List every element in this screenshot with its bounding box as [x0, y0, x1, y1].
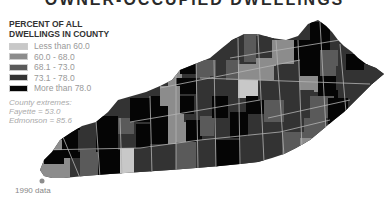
- legend-label: More than 78.0: [34, 83, 91, 93]
- legend-label: 68.1 - 73.0: [34, 62, 75, 72]
- legend-label: Less than 60.0: [34, 41, 90, 51]
- legend-item-73-78: 73.1 - 78.0: [9, 73, 109, 84]
- fulton-exclave: [40, 179, 45, 184]
- data-year-note: 1990 data: [15, 186, 51, 195]
- extremes-heading: County extremes:: [9, 98, 109, 107]
- legend-label: 60.0 - 68.0: [34, 52, 75, 62]
- legend-item-68-73: 68.1 - 73.0: [9, 62, 109, 73]
- legend-label: 73.1 - 78.0: [34, 73, 75, 83]
- legend-item-60-68: 60.0 - 68.0: [9, 52, 109, 63]
- legend-title-line2: DWELLINGS IN COUNTY: [9, 30, 109, 40]
- legend-swatch: [9, 85, 28, 92]
- legend-swatch: [9, 74, 28, 81]
- legend-swatch: [9, 53, 28, 60]
- legend: PERCENT OF ALL DWELLINGS IN COUNTY Less …: [9, 20, 109, 125]
- extremes-max: Edmonson = 85.6: [9, 116, 109, 125]
- legend-swatch: [9, 64, 28, 71]
- legend-swatch: [9, 43, 28, 50]
- county-extremes: County extremes: Fayette = 53.0 Edmonson…: [9, 98, 109, 125]
- legend-item-more-than-78: More than 78.0: [9, 83, 109, 94]
- legend-item-less-than-60: Less than 60.0: [9, 41, 109, 52]
- extremes-min: Fayette = 53.0: [9, 107, 109, 116]
